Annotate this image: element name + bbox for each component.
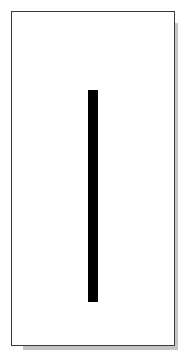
vertical-bar-shape bbox=[88, 90, 98, 302]
canvas bbox=[0, 0, 191, 359]
card-panel bbox=[11, 11, 175, 346]
